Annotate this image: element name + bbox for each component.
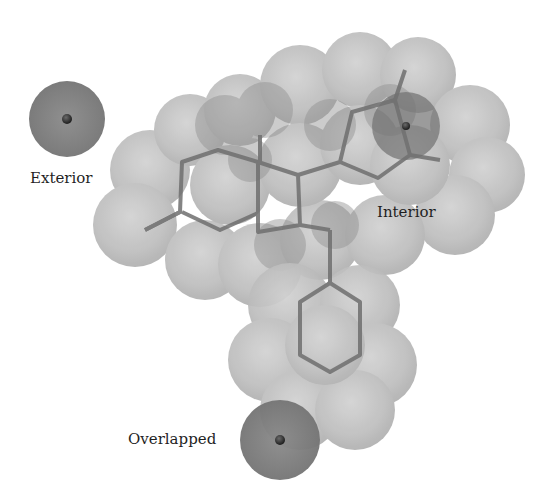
molecular-surface-figure: Exterior Interior Overlapped [0, 0, 548, 502]
overlapped-probe [240, 400, 320, 480]
molecule-surface-graphic [0, 0, 548, 502]
exterior-probe-core-icon [62, 114, 72, 124]
overlapped-label: Overlapped [128, 432, 216, 447]
upper-surface-atoms [93, 32, 525, 307]
interior-label: Interior [377, 205, 436, 220]
interior-probe-core-icon [402, 122, 410, 130]
exterior-label: Exterior [30, 171, 92, 186]
exterior-probe [29, 81, 105, 157]
interior-probe [372, 92, 440, 160]
overlapped-probe-core-icon [275, 435, 285, 445]
